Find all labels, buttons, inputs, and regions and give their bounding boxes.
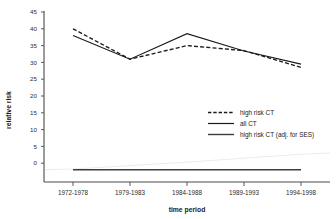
x-tick-label: 1979-1983: [115, 189, 146, 196]
y-tick-label: 45: [30, 8, 37, 15]
x-tick-label: 1989-1993: [229, 189, 260, 196]
relative-risk-line-chart: relative risk 45 40 35 30 25 20 15 10 5 …: [0, 0, 336, 219]
x-tick-label: 1972-1978: [58, 189, 89, 196]
legend-label-high-risk-ct: high risk CT: [240, 109, 274, 117]
chart-container: relative risk 45 40 35 30 25 20 15 10 5 …: [0, 0, 336, 219]
faint-trend-line: [45, 153, 330, 170]
x-tick-label: 1984-1988: [172, 189, 203, 196]
x-tick-label: 1994-1998: [286, 189, 317, 196]
y-tick-label: 40: [30, 25, 37, 32]
series-line-all-ct: [73, 34, 301, 64]
y-tick-label: 20: [30, 92, 37, 99]
y-tick-label: 25: [30, 75, 37, 82]
y-tick-label: 5: [34, 143, 38, 150]
y-tick-label: 30: [30, 59, 37, 66]
legend-label-all-ct: all CT: [240, 120, 257, 127]
y-tick-label: 10: [30, 126, 37, 133]
chart-legend: high risk CT all CT high risk CT (adj. f…: [208, 109, 314, 139]
x-axis-title: time period: [169, 206, 206, 214]
legend-label-high-risk-ct-adj-ses: high risk CT (adj. for SES): [240, 131, 314, 139]
x-axis-ticks: [73, 182, 301, 186]
y-tick-label: 15: [30, 109, 37, 116]
y-axis-title: relative risk: [5, 91, 12, 129]
y-tick-label: 0: [34, 159, 38, 166]
series-line-high-risk-ct: [73, 29, 301, 68]
y-tick-label: 35: [30, 42, 37, 49]
y-axis-ticks: 45 40 35 30 25 20 15 10 5 0: [30, 8, 44, 166]
